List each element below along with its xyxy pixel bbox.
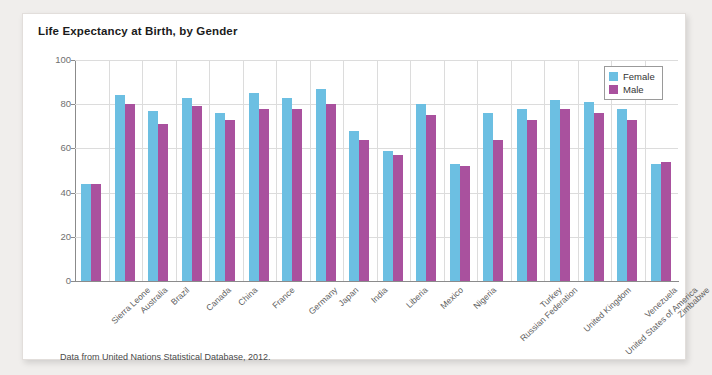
- bar-female: [383, 151, 393, 281]
- bar-group: [176, 60, 210, 281]
- y-tick-20: 20: [60, 231, 71, 242]
- bar-male: [158, 124, 168, 281]
- legend-label-female: Female: [623, 71, 655, 82]
- bar-female: [282, 98, 292, 281]
- bar-group: [343, 60, 377, 281]
- legend-label-male: Male: [623, 84, 644, 95]
- plot-area: [75, 60, 678, 281]
- bar-male: [225, 120, 235, 281]
- bar-male: [527, 120, 537, 281]
- bar-female: [349, 131, 359, 281]
- chart-source-footnote: Data from United Nations Statistical Dat…: [60, 352, 271, 362]
- bar-female: [517, 109, 527, 281]
- legend-item-female: Female: [609, 70, 655, 83]
- bar-female: [81, 184, 91, 281]
- chart-card: Life Expectancy at Birth, by Gender 0204…: [22, 13, 686, 360]
- bar-group: [410, 60, 444, 281]
- bar-female: [450, 164, 460, 281]
- legend-swatch-female-icon: [609, 72, 618, 81]
- x-tick-label: China: [236, 285, 259, 308]
- bar-group: [477, 60, 511, 281]
- bar-group: [511, 60, 545, 281]
- bar-group: [142, 60, 176, 281]
- bar-male: [192, 106, 202, 281]
- x-tick-label: India: [369, 285, 389, 305]
- y-tick-100: 100: [55, 54, 71, 65]
- x-tick-label: Liberia: [404, 285, 430, 310]
- chart-legend: Female Male: [604, 66, 663, 100]
- bar-group: [276, 60, 310, 281]
- legend-item-male: Male: [609, 83, 655, 96]
- x-tick-label: Japan: [337, 285, 361, 308]
- bar-female: [148, 111, 158, 281]
- bar-male: [91, 184, 101, 281]
- bar-female: [115, 95, 125, 281]
- bar-male: [393, 155, 403, 281]
- bar-male: [125, 104, 135, 281]
- bar-group: [243, 60, 277, 281]
- bar-female: [483, 113, 493, 281]
- y-tick-80: 80: [60, 98, 71, 109]
- bar-female: [182, 98, 192, 281]
- bar-group: [209, 60, 243, 281]
- y-tick-60: 60: [60, 142, 71, 153]
- bar-female: [584, 102, 594, 281]
- bar-male: [627, 120, 637, 281]
- bar-male: [493, 140, 503, 281]
- bar-female: [617, 109, 627, 281]
- bar-male: [460, 166, 470, 281]
- bar-male: [326, 104, 336, 281]
- bar-female: [416, 104, 426, 281]
- bar-male: [661, 162, 671, 281]
- bar-group: [310, 60, 344, 281]
- legend-swatch-male-icon: [609, 85, 618, 94]
- bar-male: [594, 113, 604, 281]
- bar-male: [292, 109, 302, 281]
- y-tick-40: 40: [60, 187, 71, 198]
- bar-group: [377, 60, 411, 281]
- bar-male: [426, 115, 436, 281]
- x-tick-label: Mexico: [438, 285, 465, 311]
- x-tick-label: France: [270, 285, 296, 311]
- bar-group: [75, 60, 109, 281]
- x-tick-label: Germany: [306, 285, 339, 316]
- bar-male: [560, 109, 570, 281]
- x-tick-label: Brazil: [169, 285, 192, 307]
- bar-female: [550, 100, 560, 281]
- bar-female: [651, 164, 661, 281]
- bar-group: [544, 60, 578, 281]
- x-tick-label: Nigeria: [472, 285, 499, 311]
- bar-group: [109, 60, 143, 281]
- bar-group: [444, 60, 478, 281]
- bar-male: [359, 140, 369, 281]
- bar-male: [259, 109, 269, 281]
- bar-female: [249, 93, 259, 281]
- x-axis-tick-labels: Sierra LeoneAustraliaBrazilCanadaChinaFr…: [75, 282, 679, 352]
- x-tick-label: Canada: [204, 285, 233, 313]
- y-axis-tick-labels: 020406080100: [23, 14, 71, 314]
- bar-female: [215, 113, 225, 281]
- x-tick-label: United Kingdom: [581, 285, 633, 334]
- bar-female: [316, 89, 326, 281]
